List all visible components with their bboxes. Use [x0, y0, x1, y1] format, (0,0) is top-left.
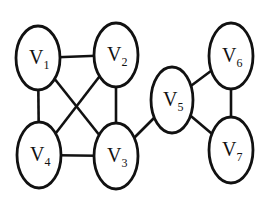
node-v1: V1: [16, 26, 60, 90]
node-v2: V2: [94, 23, 138, 87]
nodes-layer: V1V2V3V4V5V6V7: [16, 23, 253, 189]
node-v5: V5: [151, 67, 193, 133]
node-v3: V3: [94, 123, 138, 189]
graph-diagram: V1V2V3V4V5V6V7: [0, 0, 268, 204]
node-v4: V4: [17, 122, 61, 188]
node-v6: V6: [209, 23, 253, 89]
node-v7: V7: [209, 117, 253, 183]
